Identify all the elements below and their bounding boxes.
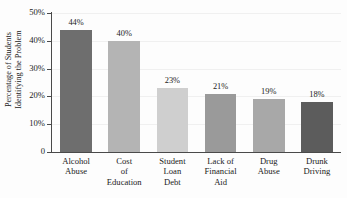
bar [301, 102, 333, 152]
y-tick-label: 40% [0, 35, 45, 45]
bar [157, 88, 189, 152]
y-tick-label: 30% [0, 63, 45, 73]
x-category-label-line: Drunk [289, 156, 345, 166]
x-axis-line [51, 152, 341, 153]
bar-value-label: 18% [287, 90, 347, 99]
x-category-label-line: Aid [193, 177, 249, 187]
bar [60, 30, 92, 152]
y-tick-label: 0 [0, 146, 45, 156]
bar-chart: Percentage of Students Identifying the P… [0, 0, 347, 198]
gridline [52, 69, 341, 70]
y-tick-label: 10% [0, 118, 45, 128]
y-tick-label: 20% [0, 90, 45, 100]
bar [108, 41, 140, 152]
gridline [52, 13, 341, 14]
bar [205, 94, 237, 152]
y-tick-label: 50% [0, 7, 45, 17]
bar [253, 99, 285, 152]
x-category-label-line: Driving [289, 166, 345, 176]
gridline [52, 41, 341, 42]
plot-area: 44%40%23%21%19%18% [52, 13, 341, 152]
gridline [52, 124, 341, 125]
bar-value-label: 40% [94, 29, 154, 38]
bar-value-label: 44% [46, 18, 106, 27]
x-category-label: DrunkDriving [289, 156, 345, 177]
